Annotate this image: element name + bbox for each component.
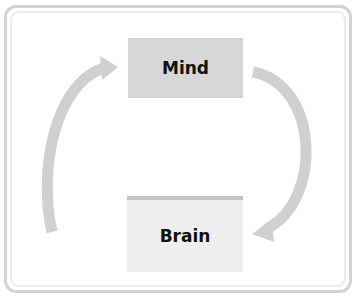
mind-label: Mind	[162, 58, 209, 78]
brain-node: Brain	[127, 196, 243, 272]
right-arrow-mind-to-brain-icon	[252, 72, 306, 242]
left-arrow-brain-to-mind-icon	[47, 56, 118, 232]
mind-node: Mind	[128, 38, 243, 98]
brain-label: Brain	[160, 226, 211, 246]
